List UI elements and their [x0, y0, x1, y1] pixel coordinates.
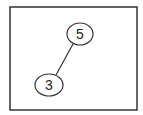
tree-diagram: 5 3 [0, 0, 143, 115]
node-label: 3 [45, 77, 53, 93]
tree-node-3: 3 [35, 74, 63, 96]
tree-node-5: 5 [67, 23, 93, 45]
node-label: 5 [76, 26, 84, 42]
diagram-frame [10, 7, 137, 110]
tree-edge-5-to-3 [56, 44, 73, 75]
